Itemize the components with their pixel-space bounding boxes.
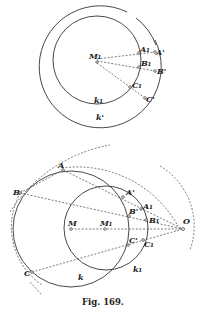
label-c: C [24,268,31,278]
point-c1-top [129,86,132,89]
figure-caption: Fig. 169. [82,297,124,307]
label-c-prime-top: C' [146,94,155,104]
circle-k-prime-arc [136,18,156,45]
point-b-prime-top [154,70,157,73]
label-c1: C₁ [144,239,154,249]
label-k-prime: k' [96,112,104,122]
ray-a-o [63,170,183,229]
label-b1: B₁ [148,215,159,225]
arc-dashed-right [160,166,194,250]
point-o [182,228,185,231]
label-a-prime: A' [125,187,135,197]
chord-b-a [20,170,63,193]
point-b1 [145,219,148,222]
point-m [70,228,73,231]
point-a1 [140,208,143,211]
label-k: k [78,272,84,282]
label-o: O [183,216,190,226]
label-k1-top: k₁ [94,95,103,105]
point-b1-top [138,66,141,69]
bottom-diagram: A B C A' A₁ B' B₁ C' C₁ M M₁ O k k₁ [10,145,194,295]
point-m1-top [96,61,98,63]
label-m1-top: M₁ [88,51,101,61]
ray-c-o [32,229,183,272]
label-m1: M₁ [99,218,112,228]
label-b1-top: B₁ [140,58,151,68]
label-a1-top: A₁ [139,44,150,54]
label-b: B [12,187,20,197]
label-b-prime-top: B' [156,66,166,76]
label-a1: A₁ [142,201,153,211]
label-b-prime: B' [128,206,138,216]
top-diagram: M₁ A₁ A' B₁ B' C₁ C' k₁ k' [39,6,166,128]
label-a-prime-top: A' [155,47,165,57]
label-m: M [67,218,78,228]
point-c [31,271,34,274]
point-m1 [104,228,107,231]
arc-dashed-top [62,167,178,226]
geometry-figure: M₁ A₁ A' B₁ B' C₁ C' k₁ k' [0,0,205,317]
label-a: A [57,160,64,170]
label-c-prime: C' [129,235,138,245]
label-c1-top: C₁ [132,80,142,90]
label-k1: k₁ [133,264,142,274]
point-a-prime [122,196,125,199]
